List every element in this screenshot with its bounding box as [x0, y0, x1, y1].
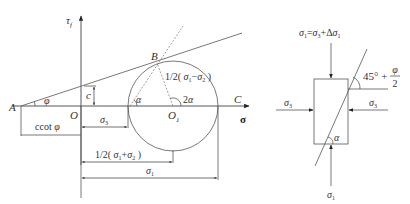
soil-element — [314, 79, 348, 144]
phi-label: φ — [44, 95, 50, 106]
center-distance-label: 1/2( σ1+σ2 ) — [95, 149, 141, 161]
alpha-label: α — [136, 94, 142, 105]
failure-angle-numerator: φ — [392, 64, 398, 75]
two-alpha-label: 2α — [183, 94, 194, 105]
left-load-label: σ3 — [284, 97, 292, 109]
failure-plane-line — [315, 49, 367, 166]
cohesion-label: c — [86, 89, 91, 101]
radius-dashed-line — [157, 63, 173, 106]
point-b-label: B — [151, 50, 158, 62]
point-c-label: C — [234, 93, 242, 105]
point-a-label: A — [8, 101, 16, 113]
diagram-canvas: τf σ A φ c O B C α 2α O1 1/2( σ1−σ2 ) cc… — [0, 0, 410, 204]
radius-label: 1/2( σ1−σ2 ) — [165, 71, 211, 83]
bottom-load-label: σ1 — [327, 189, 335, 201]
element-diagram: σ1=σ3+Δσ1 45° + φ 2 σ3 σ3 α σ1 — [276, 27, 400, 201]
strength-envelope-line — [21, 33, 242, 106]
right-load-label: σ3 — [369, 97, 377, 109]
tau-axis-label: τf — [66, 14, 73, 29]
phi-angle-arc — [34, 102, 35, 106]
failure-angle-denominator: 2 — [393, 78, 398, 89]
sigma1-label: σ1 — [146, 165, 154, 177]
ccot-phi-label: ccot φ — [35, 121, 60, 132]
sigma-axis-label: σ — [240, 113, 246, 125]
origin-label: O — [70, 109, 78, 121]
inner-angle-label: α — [334, 132, 340, 143]
center-o1-label: O1 — [168, 109, 179, 124]
top-load-label: σ1=σ3+Δσ1 — [299, 27, 341, 39]
sigma3-label: σ3 — [100, 114, 108, 126]
mohr-diagram: τf σ A φ c O B C α 2α O1 1/2( σ1−σ2 ) cc… — [8, 14, 249, 198]
failure-angle-label: 45° + — [363, 70, 387, 82]
inner-angle-arc — [328, 137, 333, 144]
